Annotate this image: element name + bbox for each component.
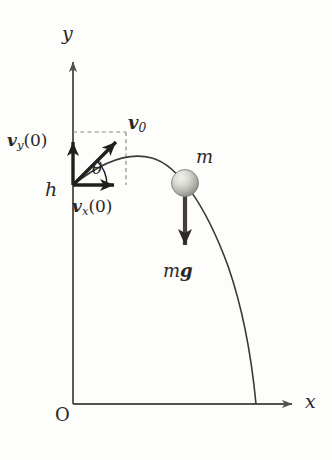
vy0-label: vy(0): [7, 132, 48, 152]
projectile-ball: [172, 170, 199, 197]
height-label: h: [45, 180, 57, 199]
v0-label: v0: [128, 114, 146, 135]
projectile-motion-figure: y x O h θ v0 vy(0) vx(0) m mg: [0, 0, 332, 460]
origin-label: O: [55, 406, 70, 424]
diagram-canvas: [0, 0, 332, 460]
weight-label: mg: [163, 262, 193, 280]
vx0-label: vx(0): [72, 198, 113, 218]
angle-label: θ: [92, 160, 102, 177]
y-axis-label: y: [62, 24, 73, 43]
x-axis-label: x: [305, 392, 316, 411]
mass-label: m: [196, 148, 213, 166]
